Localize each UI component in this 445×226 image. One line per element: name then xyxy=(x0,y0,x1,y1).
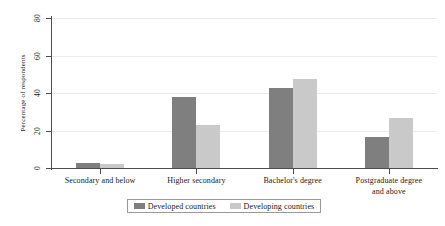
bar xyxy=(389,118,413,168)
y-axis-line xyxy=(51,16,52,170)
legend-label-developed: Developed countries xyxy=(148,202,216,211)
y-axis-title: Percentage of respondents xyxy=(19,54,27,131)
y-tick-label: 20 xyxy=(34,127,42,135)
y-tick-mark xyxy=(46,131,51,132)
legend-entry-developed: Developed countries xyxy=(134,202,216,211)
plot-area xyxy=(52,18,437,168)
y-tick-mark xyxy=(46,93,51,94)
y-tick-mark xyxy=(46,56,51,57)
bar xyxy=(293,79,317,168)
x-axis-line xyxy=(51,168,438,169)
bar xyxy=(365,137,389,168)
bar xyxy=(196,125,220,168)
y-tick-mark xyxy=(46,168,51,169)
chart-legend: Developed countries Developing countries xyxy=(127,199,321,213)
legend-label-developing: Developing countries xyxy=(244,202,315,211)
x-category-label: Bachelor's degree xyxy=(245,176,341,187)
y-tick-label: 80 xyxy=(34,14,42,22)
x-tick-mark xyxy=(293,169,294,174)
x-tick-mark xyxy=(100,169,101,174)
x-category-label: Higher secondary xyxy=(148,176,244,187)
bar-chart-figure: Percentage of respondents 020406080 Seco… xyxy=(0,0,445,226)
x-tick-mark xyxy=(389,169,390,174)
x-category-label: Secondary and below xyxy=(52,176,148,187)
y-tick-label: 60 xyxy=(34,52,42,60)
legend-entry-developing: Developing countries xyxy=(230,202,315,211)
y-tick-mark xyxy=(46,18,51,19)
x-category-label: Postgraduate degree and above xyxy=(341,176,437,197)
bar xyxy=(269,88,293,168)
legend-swatch-icon-developed xyxy=(134,203,145,209)
gridline xyxy=(52,93,437,94)
y-tick-label: 40 xyxy=(34,89,42,97)
x-tick-mark xyxy=(196,169,197,174)
bar xyxy=(172,97,196,168)
legend-swatch-icon-developing xyxy=(230,203,241,209)
gridline xyxy=(52,56,437,57)
y-tick-label: 0 xyxy=(34,166,42,170)
gridline xyxy=(52,18,437,19)
gridline xyxy=(52,131,437,132)
